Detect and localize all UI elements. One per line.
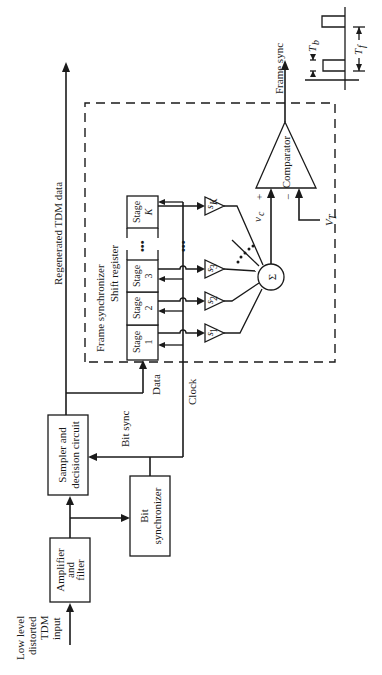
arrow-icon [121,514,130,522]
svg-text:Clock: Clock [186,378,198,405]
svg-text:TDM: TDM [38,615,50,640]
svg-text:−: − [282,194,294,200]
svg-text:Comparator: Comparator [280,135,292,188]
svg-text:c: c [255,211,266,216]
arrow-icon [62,62,70,72]
weight-s1: s 1 [204,324,224,342]
svg-text:T: T [327,213,338,220]
svg-text:decision circuit: decision circuit [69,421,81,489]
svg-text:2: 2 [143,306,154,311]
svg-text:Regenerated TDM data: Regenerated TDM data [52,182,64,285]
arrow-icon [267,188,275,198]
svg-text:K: K [143,207,154,216]
svg-text:input: input [50,617,62,640]
summer-block: Σ [258,264,284,290]
tdm-receiver-block-diagram: Low level distorted TDM input Amplifier … [0,0,382,675]
clock-distribution: ••• [158,199,189,348]
svg-text:1: 1 [208,328,219,333]
svg-text:Stage: Stage [131,330,142,353]
comparator-block: Comparator [256,122,316,188]
arrow-icon [295,188,303,198]
svg-text:synchronizer: synchronizer [151,487,163,544]
svg-text:Shift register: Shift register [108,245,120,302]
svg-text:2: 2 [208,296,219,301]
sampler-decision-block: Sampler and decision circuit [48,415,88,495]
svg-text:3: 3 [208,264,219,269]
svg-text:Frame synchronizer: Frame synchronizer [94,264,106,352]
arrow-icon [88,453,97,461]
shift-register: Stage 1 Stage 2 Stage 3 ••• Stage K [127,196,158,360]
svg-text:v: v [251,217,263,222]
svg-text:Sampler and: Sampler and [56,427,68,483]
svg-text:f: f [356,44,367,48]
frame-synchronizer-boundary [85,103,335,362]
svg-text:Bit sync: Bit sync [119,411,131,447]
svg-text:•••: ••• [177,240,189,252]
svg-text:Σ: Σ [266,274,278,280]
vt-line [299,196,320,220]
svg-text:Frame sync: Frame sync [273,43,285,94]
svg-text:Bit: Bit [138,509,150,522]
weight-s2: s 2 [204,292,224,310]
svg-text:K: K [208,197,219,206]
input-label: Low level distorted TDM input [14,615,62,660]
timing-inset: T b T f [305,7,367,90]
summer-inputs [224,206,263,333]
arrow-icon [66,496,74,505]
svg-text:T: T [306,45,318,52]
svg-text:distorted: distorted [26,616,38,655]
svg-text:filter: filter [74,559,86,581]
svg-text:T: T [352,48,364,55]
svg-text:+: + [253,194,265,200]
svg-text:Stage: Stage [131,264,142,287]
svg-text:3: 3 [143,274,154,279]
amplifier-filter-block: Amplifier and filter [50,538,90,602]
svg-text:b: b [310,40,321,45]
svg-text:Low level: Low level [14,616,26,660]
svg-text:Stage: Stage [131,200,142,223]
svg-text:Data: Data [150,374,162,395]
svg-text:Stage: Stage [131,296,142,319]
bit-synchronizer-block: Bit synchronizer [130,476,170,556]
weight-sk: s K [204,197,224,215]
svg-text:1: 1 [143,340,154,345]
weight-s3: s 3 [204,260,224,278]
stage-outputs [158,202,205,337]
svg-text:•••: ••• [136,240,148,252]
input-arrow-icon [66,603,74,612]
